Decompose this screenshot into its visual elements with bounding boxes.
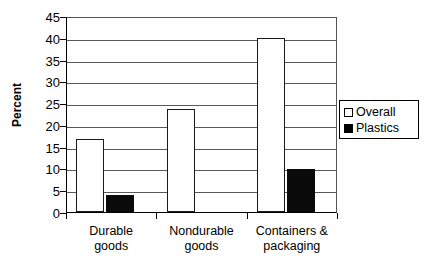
- y-axis-tick-label: 40: [24, 32, 60, 45]
- legend-label-plastics: Plastics: [356, 122, 399, 135]
- y-axis-tick-label: 5: [24, 185, 60, 198]
- y-axis-tick-mark: [60, 148, 66, 149]
- y-axis-tick-mark: [60, 17, 66, 18]
- x-axis-category-label: Containers &packaging: [237, 224, 347, 254]
- category-label-line1: Containers &: [256, 224, 328, 238]
- gridline: [67, 83, 336, 84]
- category-label-line1: Durable: [89, 224, 133, 238]
- y-axis-tick-label: 0: [24, 207, 60, 220]
- y-axis-tick-label: 25: [24, 98, 60, 111]
- black-square-swatch-icon: [344, 124, 353, 133]
- y-axis-tick-mark: [60, 82, 66, 83]
- y-axis-tick-mark: [60, 126, 66, 127]
- gridline: [67, 105, 336, 106]
- legend-item-plastics: Plastics: [344, 120, 418, 136]
- x-axis-tick-mark: [247, 213, 248, 219]
- category-label-line2: packaging: [237, 239, 347, 254]
- y-axis-tick-label: 45: [24, 11, 60, 24]
- bar-plastics-0: [106, 195, 134, 212]
- y-axis-tick-label: 15: [24, 141, 60, 154]
- y-axis-tick-mark: [60, 169, 66, 170]
- gridline: [67, 62, 336, 63]
- y-axis-tick-label: 10: [24, 163, 60, 176]
- y-axis-tick-label: 20: [24, 119, 60, 132]
- bar-overall-0: [76, 139, 104, 212]
- legend-label-overall: Overall: [356, 106, 396, 119]
- y-axis-tick-mark: [60, 39, 66, 40]
- y-axis-title: Percent: [10, 57, 24, 153]
- white-square-swatch-icon: [344, 108, 353, 117]
- bar-plastics-2: [287, 169, 315, 212]
- gridline: [67, 127, 336, 128]
- plot-area: [66, 17, 337, 213]
- gridline: [67, 149, 336, 150]
- chart-legend: Overall Plastics: [339, 100, 419, 139]
- x-axis-tick-mark: [156, 213, 157, 219]
- y-axis-tick-mark: [60, 104, 66, 105]
- y-axis-tick-mark: [60, 61, 66, 62]
- x-axis-tick-mark: [66, 213, 67, 219]
- bar-overall-2: [257, 38, 285, 212]
- x-axis-tick-mark: [337, 213, 338, 219]
- gridline: [67, 40, 336, 41]
- y-axis-tick-mark: [60, 191, 66, 192]
- bar-overall-1: [167, 109, 195, 212]
- legend-item-overall: Overall: [344, 104, 418, 120]
- category-label-line1: Nondurable: [169, 224, 234, 238]
- chart-figure: Percent 051015202530354045 Overall Plast…: [0, 0, 424, 279]
- y-axis-tick-label: 35: [24, 54, 60, 67]
- y-axis-tick-label: 30: [24, 76, 60, 89]
- y-axis-tick-labels: 051015202530354045: [24, 0, 60, 279]
